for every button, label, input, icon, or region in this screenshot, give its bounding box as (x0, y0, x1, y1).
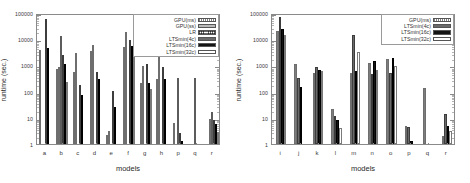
y-minor-tick (272, 21, 274, 22)
legend-swatch (433, 30, 451, 34)
legend-label: GPU(ms) (174, 17, 196, 23)
bar (98, 79, 100, 144)
bar (181, 141, 183, 144)
x-tick-label: c (76, 150, 79, 156)
x-tick-mark (112, 143, 113, 145)
y-minor-tick (272, 71, 274, 72)
y-axis-label-wrap-left: runtime (sec.) (6, 14, 16, 145)
bar-group (56, 15, 68, 144)
y-minor-tick (452, 104, 454, 105)
y-minor-tick (452, 128, 454, 129)
y-minor-tick (272, 122, 274, 123)
x-tick-mark (79, 143, 80, 145)
x-tick-mark (410, 143, 411, 145)
y-tick-label: 100 (259, 90, 268, 96)
y-minor-tick (452, 86, 454, 87)
legend-right: GPU(ms)LTSmin(4c)LTSmin(16c)LTSmin(32c) (381, 14, 454, 45)
y-tick-label: 10000 (18, 37, 33, 43)
y-minor-tick (272, 78, 274, 79)
legend-swatch (433, 18, 451, 22)
y-minor-tick (272, 19, 274, 20)
x-tick-label: k (316, 150, 319, 156)
y-tick-label: 10 (262, 116, 268, 122)
y-minor-tick (452, 133, 454, 134)
bar (173, 123, 175, 144)
y-minor-tick (452, 60, 454, 61)
y-minor-tick (452, 122, 454, 123)
bar (47, 48, 49, 144)
x-tick-mark (196, 143, 197, 145)
x-tick-mark (213, 143, 214, 145)
x-tick-mark (129, 143, 130, 145)
y-minor-tick (452, 121, 454, 122)
y-minor-tick (272, 86, 274, 87)
y-minor-tick (272, 130, 274, 131)
y-minor-tick (272, 126, 274, 127)
legend-label: LTSmin(32c) (401, 36, 431, 42)
y-minor-tick (272, 107, 274, 108)
y-minor-tick (272, 16, 274, 17)
bar (357, 52, 360, 144)
x-tick-label: r (445, 150, 447, 156)
x-axis-label-right: models (271, 164, 455, 173)
y-minor-tick (272, 81, 274, 82)
legend-label: GPU(ss) (176, 23, 196, 29)
bar (150, 89, 152, 144)
x-tick-label: o (389, 150, 392, 156)
legend-swatch (198, 50, 216, 54)
bar-group (294, 15, 304, 144)
legend-swatch (198, 30, 216, 34)
x-tick-mark (281, 143, 282, 145)
y-minor-tick (452, 69, 454, 70)
bar (164, 79, 166, 144)
x-tick-mark (179, 143, 180, 145)
x-tick-label: p (177, 150, 180, 156)
legend-swatch (198, 24, 216, 28)
legend-swatch (433, 24, 451, 28)
bar (66, 82, 68, 144)
legend-label: LTSmin(32c) (166, 49, 196, 55)
y-minor-tick (452, 138, 454, 139)
y-minor-tick (452, 55, 454, 56)
y-minor-tick (272, 98, 274, 99)
y-axis-label-wrap-right: runtime (sec.) (241, 14, 251, 145)
legend-label: LTSmin(16c) (166, 42, 196, 48)
x-tick-label: r (211, 150, 213, 156)
y-minor-tick (452, 52, 454, 53)
y-minor-tick (452, 107, 454, 108)
y-minor-tick (272, 104, 274, 105)
bar (321, 71, 324, 144)
y-tick-label: 1000 (21, 63, 33, 69)
y-minor-tick (272, 18, 274, 19)
bar-group (276, 15, 286, 144)
y-axis-label-right: runtime (sec.) (235, 58, 242, 101)
legend-left: GPU(ms)GPU(ss)LRLTSmin(4c)LTSmin(16c)LTS… (133, 14, 219, 57)
y-minor-tick (272, 128, 274, 129)
bar (284, 35, 287, 144)
y-minor-tick (272, 99, 274, 100)
bar (158, 56, 160, 144)
bar (449, 131, 452, 144)
x-axis-ticks-right: ijklmnopqr (271, 146, 455, 158)
bar (394, 66, 397, 144)
y-minor-tick (452, 101, 454, 102)
dual-bar-chart-figure: 110100100010000100000 runtime (sec.) abc… (0, 0, 470, 183)
bar (81, 95, 83, 144)
y-tick-label: 1 (265, 142, 268, 148)
y-minor-tick (452, 78, 454, 79)
bar (114, 107, 116, 144)
legend-swatch (198, 43, 216, 47)
y-axis-label-left: runtime (sec.) (0, 58, 7, 101)
x-axis-ticks-left: abcdefghpqr (36, 146, 220, 158)
x-tick-mark (300, 143, 301, 145)
bar-group (331, 15, 341, 144)
bar (92, 45, 94, 144)
chart-panel-right: 110100100010000100000 runtime (sec.) ijk… (235, 0, 470, 183)
bar (300, 87, 303, 144)
y-minor-tick (452, 81, 454, 82)
y-minor-tick (272, 73, 274, 74)
y-tick-label: 10000 (253, 37, 268, 43)
y-tick-label: 10 (27, 116, 33, 122)
x-tick-mark (336, 143, 337, 145)
x-tick-label: q (193, 150, 196, 156)
